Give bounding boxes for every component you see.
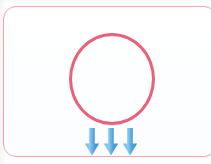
down-arrow-icon [103,128,119,156]
down-arrow-group [84,128,142,157]
circle-shape [69,33,155,125]
diagram-card [3,6,211,157]
down-arrow-icon [122,128,138,156]
down-arrow-icon [84,128,100,156]
diagram-screenshot [0,0,211,164]
